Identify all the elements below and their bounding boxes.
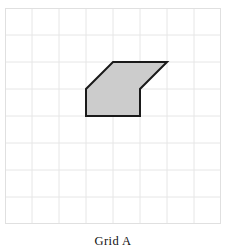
grid-figure: Grid A	[0, 0, 226, 251]
grid-canvas	[0, 0, 226, 251]
figure-caption: Grid A	[0, 234, 226, 249]
